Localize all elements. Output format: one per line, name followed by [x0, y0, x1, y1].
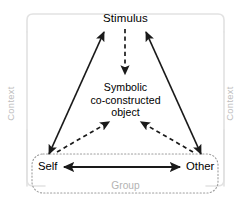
object-label-line-3: object [0, 106, 251, 119]
node-label-other: Other [186, 160, 214, 173]
node-label-self: Self [38, 160, 57, 173]
group-box-label: Group [0, 180, 251, 192]
object-label-line-1: Symbolic [0, 81, 251, 94]
diagram-canvas: Stimulus Symbolic co-constructed object … [0, 0, 251, 211]
node-label-symbolic-object: Symbolic co-constructed object [0, 81, 251, 119]
edge-other-object [141, 122, 193, 152]
node-label-stimulus: Stimulus [0, 12, 251, 26]
context-label-right: Context [224, 86, 235, 120]
context-label-left: Context [5, 86, 16, 120]
edge-self-object [57, 122, 109, 152]
object-label-line-2: co-constructed [0, 94, 251, 107]
